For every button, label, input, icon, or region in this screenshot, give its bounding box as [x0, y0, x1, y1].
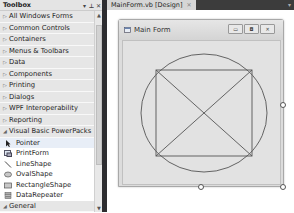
tool-printform[interactable]: PrintForm	[0, 148, 94, 159]
tab-label: MainForm.vb [Design]	[111, 0, 183, 10]
tool-label: PrintForm	[16, 149, 49, 157]
category-label: Visual Basic PowerPacks	[9, 127, 91, 135]
category-dialogs[interactable]: ▷Dialogs	[0, 92, 94, 104]
category-label: Containers	[9, 35, 46, 43]
category-label: Menus & Toolbars	[9, 47, 69, 55]
resize-handle-bottom-right[interactable]	[280, 184, 286, 190]
tool-label: Pointer	[16, 139, 40, 147]
tool-datarepeater[interactable]: DataRepeater	[0, 190, 94, 201]
category-data[interactable]: ▷Data	[0, 57, 94, 69]
form-icon	[124, 27, 131, 33]
category-label: Data	[9, 58, 25, 66]
category-wpf-interoperability[interactable]: ▷WPF Interoperability	[0, 103, 94, 115]
resize-handle-bottom[interactable]	[198, 184, 204, 190]
category-label: Components	[9, 70, 52, 78]
category-common-controls[interactable]: ▷Common Controls	[0, 23, 94, 35]
maximize-icon[interactable]: ◘	[244, 24, 259, 34]
tool-rectangleshape[interactable]: RectangleShape	[0, 180, 94, 191]
toolbox-header: Toolbox ▾ ⊥ ✕	[0, 0, 102, 11]
close-icon[interactable]: ✕	[260, 24, 275, 34]
category-label: Printing	[9, 81, 35, 89]
window-buttons: ▭ ◘ ✕	[228, 24, 275, 34]
dropdown-icon[interactable]: ▾	[81, 2, 88, 9]
category-visual-basic-powerpacks[interactable]: ◢Visual Basic PowerPacks	[0, 126, 94, 138]
tool-label: OvalShape	[16, 170, 53, 178]
rectangleshape-icon	[4, 182, 12, 189]
tab-close-icon[interactable]: ✕	[187, 0, 192, 10]
form-title: Main Form	[134, 26, 171, 34]
document-tab-bar: MainForm.vb [Design] ✕ ▾	[107, 0, 294, 10]
category-label: All Windows Forms	[9, 12, 73, 20]
toolbox-title: Toolbox	[3, 1, 81, 9]
main-form-window[interactable]: Main Form ▭ ◘ ✕	[118, 19, 284, 187]
minimize-icon[interactable]: ▭	[228, 24, 243, 34]
category-menus-toolbars[interactable]: ▷Menus & Toolbars	[0, 46, 94, 58]
tool-label: LineShape	[16, 160, 51, 168]
toolbox-list: ▷All Windows Forms ▷Common Controls ▷Con…	[0, 11, 94, 212]
category-label: Dialogs	[9, 93, 34, 101]
category-reporting[interactable]: ▷Reporting	[0, 115, 94, 127]
category-label: Common Controls	[9, 24, 70, 32]
form-client-area[interactable]	[122, 40, 281, 185]
designer-pane: MainForm.vb [Design] ✕ ▾ Main Form ▭ ◘ ✕	[107, 0, 294, 212]
category-general[interactable]: ◢General	[0, 201, 94, 213]
tab-mainform-design[interactable]: MainForm.vb [Design] ✕	[107, 0, 196, 10]
category-containers[interactable]: ▷Containers	[0, 34, 94, 46]
ovalshape-icon	[4, 171, 12, 178]
tool-ovalshape[interactable]: OvalShape	[0, 169, 94, 180]
category-label: WPF Interoperability	[9, 104, 78, 112]
pointer-icon	[4, 140, 12, 147]
tool-label: RectangleShape	[16, 181, 71, 189]
printform-icon	[4, 150, 12, 157]
tab-dropdown-icon[interactable]: ▾	[288, 0, 294, 10]
category-all-windows-forms[interactable]: ▷All Windows Forms	[0, 11, 94, 23]
category-label: General	[9, 202, 36, 210]
toolbox-panel: Toolbox ▾ ⊥ ✕ ▷All Windows Forms ▷Common…	[0, 0, 103, 212]
datarepeater-icon	[4, 192, 12, 199]
tool-lineshape[interactable]: LineShape	[0, 159, 94, 170]
resize-handle-right[interactable]	[280, 102, 286, 108]
tool-label: DataRepeater	[16, 191, 63, 199]
category-printing[interactable]: ▷Printing	[0, 80, 94, 92]
category-components[interactable]: ▷Components	[0, 69, 94, 81]
lineshape-icon	[4, 161, 12, 168]
form-title-bar: Main Form ▭ ◘ ✕	[119, 20, 283, 40]
shapes-layer	[123, 41, 280, 184]
tool-pointer[interactable]: Pointer	[0, 138, 94, 149]
pin-icon[interactable]: ⊥	[88, 2, 95, 9]
category-label: Reporting	[9, 116, 42, 124]
close-icon[interactable]: ✕	[95, 2, 102, 9]
